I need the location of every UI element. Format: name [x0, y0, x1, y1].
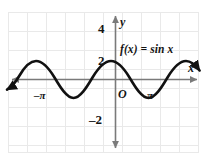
y-axis-tick-label-2: 2: [98, 54, 105, 67]
origin-label: O: [118, 88, 127, 100]
y-axis-tick-label-4: 4: [98, 22, 105, 35]
y-axis-tick-label-negative-2: –2: [89, 113, 102, 126]
sine-function-graph: 4 2 –2 –π π O y x f(x) = sin x: [0, 0, 208, 160]
x-axis-name-label: x: [188, 62, 194, 74]
x-axis-tick-label-pi: π: [147, 90, 153, 101]
x-axis-tick-label-negative-pi: –π: [34, 90, 46, 101]
function-equation-label: f(x) = sin x: [120, 44, 173, 56]
y-axis-name-label: y: [120, 16, 125, 28]
